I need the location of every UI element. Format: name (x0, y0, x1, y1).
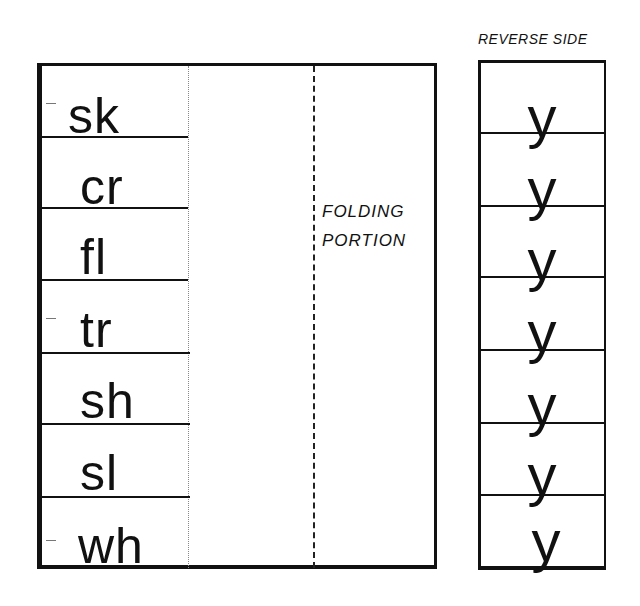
blend-label-sl: sl (80, 448, 118, 498)
fold-line (313, 66, 315, 568)
blend-label-fl: fl (80, 232, 107, 282)
blend-label-sh: sh (80, 376, 135, 426)
margin-tick (46, 318, 56, 319)
margin-tick (46, 103, 56, 104)
folding-label-line1: FOLDING (322, 197, 432, 226)
folding-portion-label: FOLDING PORTION (322, 197, 432, 255)
blend-label-tr: tr (80, 305, 113, 355)
row-divider (42, 279, 188, 281)
reverse-letter-y: y (478, 376, 606, 434)
reverse-letter-y: y (478, 446, 606, 504)
reverse-letter-y: y (478, 160, 606, 218)
margin-tick (46, 540, 56, 541)
strip-divider-line (188, 66, 189, 568)
folding-label-line2: PORTION (322, 226, 432, 255)
reverse-letter-y: y (478, 231, 606, 289)
reverse-letter-y: y (482, 512, 610, 570)
reverse-letter-y: y (478, 303, 606, 361)
row-divider (42, 352, 190, 354)
blend-label-cr: cr (80, 162, 124, 212)
reverse-letter-y: y (478, 88, 606, 146)
blend-label-wh: wh (78, 521, 144, 571)
blend-label-sk: sk (68, 91, 120, 141)
reverse-side-title: REVERSE SIDE (478, 31, 618, 47)
